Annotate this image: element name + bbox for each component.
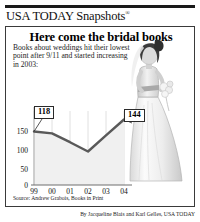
source-note: Source: Andrew Grabois, Books in Print [13,195,103,201]
callout-first-value: 118 [34,106,54,119]
area-fill [34,120,124,186]
y-tick-150: 150 [12,127,28,136]
credit-line: By Jacqueline Blais and Karl Gelles, USA… [80,211,195,217]
callout-last-value: 144 [124,109,145,122]
registered-mark-icon: ® [125,10,129,16]
masthead-rule [5,5,195,8]
y-tick-50: 50 [12,165,28,174]
bride-hair-bun [154,40,164,52]
y-tick-100: 100 [12,146,28,155]
masthead-title-text: USA TODAY Snapshots [6,9,125,23]
masthead-title: USA TODAY Snapshots® [6,9,130,24]
usa-today-snapshot: USA TODAY Snapshots® Here come the brida… [0,0,200,222]
snapshot-panel: Here come the bridal books Books about w… [5,26,195,207]
callout-leader-first [34,119,42,132]
